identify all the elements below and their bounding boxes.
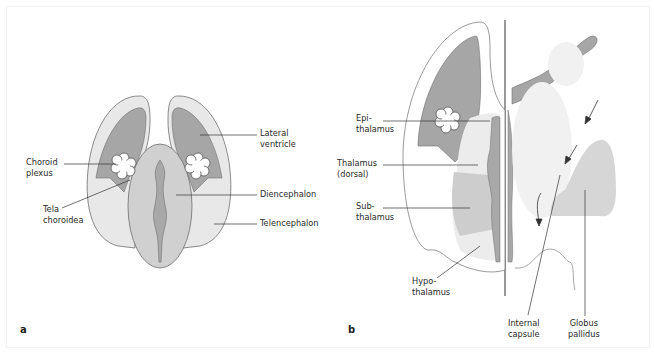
panel-a-diagram (0, 0, 654, 357)
label-choroid-plexus: Choroid plexus (26, 157, 58, 179)
label-thalamus-dorsal: Thalamus (dorsal) (337, 158, 377, 180)
panel-letter-b: b (348, 324, 355, 335)
label-subthalamus: Sub- thalamus (356, 201, 394, 223)
caudate-head (548, 42, 584, 86)
label-epithalamus: Epi- thalamus (356, 113, 394, 135)
label-diencephalon: Diencephalon (260, 189, 316, 200)
lower-outline (515, 249, 575, 290)
label-tela-choroidea: Tela choroidea (43, 204, 83, 226)
panel-letter-a: a (20, 324, 27, 335)
label-telencephalon: Telencephalon (260, 218, 319, 229)
ventricle-edge-strip (508, 110, 513, 262)
label-hypothalamus: Hypo- thalamus (412, 276, 450, 298)
label-lateral-ventricle: Lateral ventricle (260, 128, 296, 150)
label-globus-pallidus: Globus pallidus (568, 318, 600, 340)
label-internal-capsule: Internal capsule (508, 318, 540, 340)
